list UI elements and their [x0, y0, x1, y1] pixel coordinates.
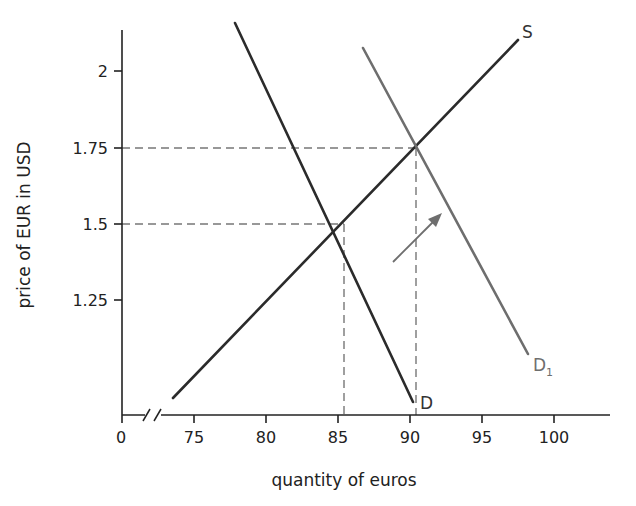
y-tick-label-1-75: 1.75: [72, 139, 108, 158]
label-d1: D1: [533, 355, 553, 379]
label-s: S: [522, 22, 533, 42]
guide-lines: [122, 148, 416, 415]
y-tick-label-1-5: 1.5: [83, 215, 108, 234]
y-axis-title: price of EUR in USD: [14, 141, 34, 308]
axis-break-icon: [143, 408, 161, 422]
x-tick-label-80: 80: [256, 428, 276, 447]
supply-demand-chart: S D D1 2 1.75 1.5 1.25 0 75 80 85 90 95 …: [0, 0, 636, 506]
supply-curve-s: [173, 40, 518, 398]
y-tick-label-2: 2: [98, 62, 108, 81]
x-tick-label-100: 100: [539, 428, 570, 447]
y-tick-label-1-25: 1.25: [72, 291, 108, 310]
shift-arrow-icon: [393, 213, 442, 262]
x-axis-title: quantity of euros: [271, 470, 416, 490]
x-tick-label-75: 75: [184, 428, 204, 447]
label-d: D: [420, 393, 433, 413]
x-tick-label-90: 90: [400, 428, 420, 447]
label-d1-sub: 1: [546, 366, 553, 379]
x-tick-label-85: 85: [328, 428, 348, 447]
demand-curve-d: [235, 23, 413, 402]
x-tick-label-95: 95: [472, 428, 492, 447]
demand-curve-d1: [363, 48, 528, 354]
x-tick-label-0: 0: [116, 428, 126, 447]
label-d1-main: D: [533, 355, 546, 375]
